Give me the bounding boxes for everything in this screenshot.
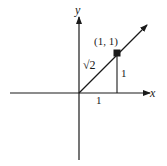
point-marker: [114, 50, 121, 57]
y-axis-label: y: [74, 3, 81, 17]
vertical-leg-label: 1: [121, 67, 127, 79]
hypotenuse-label: √2: [83, 58, 96, 72]
horizontal-leg-label: 1: [96, 94, 102, 106]
x-axis-label: x: [149, 86, 156, 100]
coordinate-diagram: x y (1, 1) √2 1 1: [0, 0, 167, 166]
point-label: (1, 1): [94, 35, 118, 48]
